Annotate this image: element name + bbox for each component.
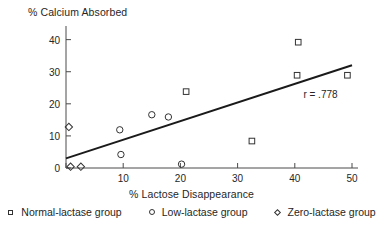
regression-line [66,65,352,158]
data-point-marker [165,114,171,120]
x-axis-title: % Lactose Disappearance [0,188,383,200]
x-axis-tick-label: 10 [110,173,136,184]
square-marker-icon [7,208,16,217]
x-axis-tick-label: 40 [282,173,308,184]
x-axis-tick-label: 20 [167,173,193,184]
legend-item-label: Normal-lactase group [21,206,121,218]
scatter-plot-figure: % Calcium Absorbed 0102030401020304050r … [0,0,383,229]
data-point-marker [294,72,300,78]
diamond-marker-icon [274,208,283,217]
marker-glyph [274,208,281,215]
legend-item: Normal-lactase group [7,206,121,218]
data-point-marker [77,163,84,170]
y-axis-tick-label: 30 [34,66,60,77]
marker-glyph [149,209,155,215]
y-axis-tick-label: 10 [34,130,60,141]
data-point-marker [178,161,184,167]
legend-item: Low-lactase group [148,206,248,218]
legend-item: Zero-lactase group [274,206,376,218]
y-axis-tick-label: 20 [34,98,60,109]
marker-glyph [8,210,13,215]
circle-marker-icon [148,208,157,217]
data-point-marker [67,163,74,170]
legend-item-label: Zero-lactase group [288,206,376,218]
data-point-marker [117,127,123,133]
data-point-marker [149,112,155,118]
y-axis-tick-label: 0 [34,163,60,174]
data-point-marker [183,89,189,95]
y-axis-tick-label: 40 [34,34,60,45]
correlation-annotation: r = .778 [303,89,337,100]
legend-item-label: Low-lactase group [162,206,248,218]
chart-legend: Normal-lactase groupLow-lactase groupZer… [0,206,383,218]
x-axis-tick-label: 30 [225,173,251,184]
data-point-marker [118,151,124,157]
data-point-marker [249,138,255,144]
x-axis-tick-label: 50 [339,173,365,184]
data-point-marker [295,39,301,45]
data-point-marker [345,72,351,78]
